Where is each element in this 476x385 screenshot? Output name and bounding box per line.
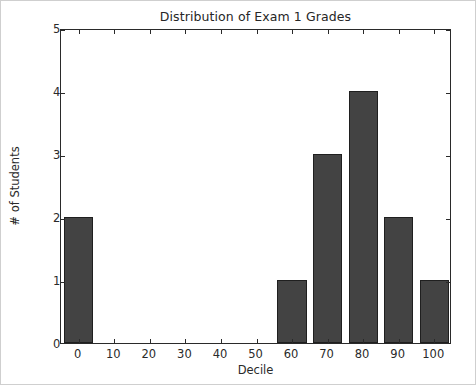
x-tick-mark (257, 30, 258, 34)
x-tick-mark (185, 30, 186, 34)
x-tick-label: 40 (213, 347, 228, 361)
x-tick-mark (434, 339, 435, 343)
x-tick-mark (221, 339, 222, 343)
bar (349, 91, 378, 343)
x-tick-mark (114, 339, 115, 343)
x-tick-label: 100 (422, 347, 444, 361)
x-tick-label: 80 (355, 347, 370, 361)
y-tick-mark (446, 156, 450, 157)
x-tick-label: 0 (74, 347, 81, 361)
x-tick-mark (79, 339, 80, 343)
y-tick-mark (446, 30, 450, 31)
y-tick-mark (446, 219, 450, 220)
x-tick-mark (328, 339, 329, 343)
y-tick-label: 5 (53, 22, 60, 36)
x-tick-label: 90 (390, 347, 405, 361)
x-tick-mark (185, 339, 186, 343)
bar (64, 217, 93, 343)
x-tick-mark (399, 339, 400, 343)
x-axis-label: Decile (60, 363, 451, 377)
y-tick-mark (61, 219, 65, 220)
x-tick-label: 10 (106, 347, 121, 361)
x-tick-mark (79, 30, 80, 34)
figure: Distribution of Exam 1 Grades 0102030405… (1, 1, 475, 384)
x-tick-mark (399, 30, 400, 34)
bar (420, 280, 449, 343)
x-tick-mark (328, 30, 329, 34)
y-tick-label: 1 (53, 274, 60, 288)
x-tick-mark (363, 30, 364, 34)
x-tick-mark (150, 30, 151, 34)
y-tick-mark (61, 282, 65, 283)
y-axis-label: # of Students (8, 146, 22, 225)
plot-area (60, 29, 451, 344)
y-tick-label: 4 (53, 85, 60, 99)
x-tick-label: 60 (284, 347, 299, 361)
bar (384, 217, 413, 343)
x-tick-mark (363, 339, 364, 343)
y-tick-mark (61, 93, 65, 94)
y-tick-label: 0 (53, 337, 60, 351)
x-tick-mark (434, 30, 435, 34)
y-tick-label: 2 (53, 211, 60, 225)
x-tick-mark (257, 339, 258, 343)
x-tick-label: 20 (142, 347, 157, 361)
bar-series (61, 30, 450, 343)
x-tick-mark (292, 30, 293, 34)
x-tick-label: 70 (319, 347, 334, 361)
x-tick-mark (150, 339, 151, 343)
x-tick-mark (221, 30, 222, 34)
bar (277, 280, 306, 343)
x-tick-mark (292, 339, 293, 343)
chart-screenshot: Distribution of Exam 1 Grades 0102030405… (0, 0, 476, 385)
y-tick-mark (61, 30, 65, 31)
y-tick-mark (446, 93, 450, 94)
bar (313, 154, 342, 343)
chart-title: Distribution of Exam 1 Grades (60, 9, 451, 24)
x-tick-mark (114, 30, 115, 34)
x-tick-label: 30 (177, 347, 192, 361)
y-tick-label: 3 (53, 148, 60, 162)
y-tick-mark (61, 156, 65, 157)
x-tick-label: 50 (248, 347, 263, 361)
y-tick-mark (446, 282, 450, 283)
